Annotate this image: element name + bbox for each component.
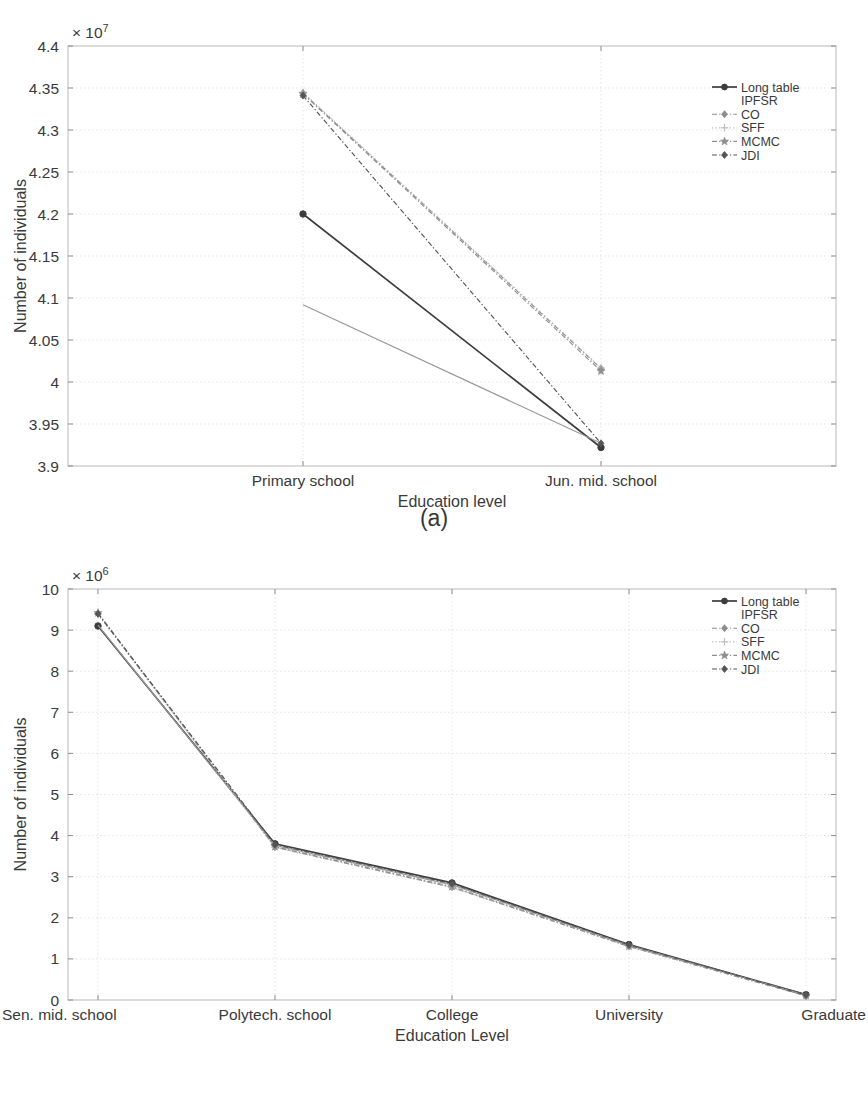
y-tick-label: 4.35 <box>29 80 59 97</box>
legend-label: IPFSR <box>741 608 778 622</box>
series-line-co <box>303 93 601 369</box>
y-tick-label: 5 <box>50 786 59 803</box>
legend-label: IPFSR <box>741 94 778 108</box>
subfigure-a-caption: (a) <box>0 505 868 532</box>
chart-legend: Long tableIPFSRCOSFFMCMCJDI <box>712 595 799 677</box>
x-tick-label: Jun. mid. school <box>545 472 657 489</box>
data-series-group <box>94 609 810 1000</box>
x-tick-label: College <box>426 1006 479 1023</box>
y-tick-label: 4 <box>50 827 59 844</box>
figure-page: 3.93.9544.054.14.154.24.254.34.354.4Prim… <box>0 0 868 1096</box>
legend-label: JDI <box>741 149 760 163</box>
x-tick-label: Sen. mid. school <box>2 1006 117 1023</box>
data-point-marker-circle <box>722 598 728 604</box>
x-tick-label: Polytech. school <box>219 1006 332 1023</box>
series-line-jdi <box>303 96 601 444</box>
chart-legend: Long tableIPFSRCOSFFMCMCJDI <box>712 81 799 163</box>
y-tick-label: 8 <box>50 663 59 680</box>
x-tick-label: Primary school <box>252 472 355 489</box>
y-axis-title: Number of individuals <box>12 718 29 872</box>
data-point-marker-plus <box>721 124 728 131</box>
data-point-marker-circle <box>300 211 306 217</box>
plot-b: 012345678910Sen. mid. schoolPolytech. sc… <box>0 548 868 1096</box>
data-point-marker-diamond <box>722 111 728 118</box>
legend-label: Long table <box>741 81 799 95</box>
y-tick-label: 4 <box>50 374 59 391</box>
y-tick-label: 4.05 <box>29 332 59 349</box>
y-tick-label: 1 <box>50 950 59 967</box>
y-tick-label: 2 <box>50 909 59 926</box>
y-tick-label: 4.4 <box>37 38 59 55</box>
y-tick-label: 4.15 <box>29 248 59 265</box>
subfigure-b: 012345678910Sen. mid. schoolPolytech. sc… <box>0 548 868 1096</box>
x-tick-label: Graduate <box>801 1006 866 1023</box>
y-tick-label: 3.95 <box>29 416 59 433</box>
y-axis-exponent-label: × 106 <box>72 565 109 584</box>
series-line-long-table <box>303 214 601 448</box>
y-tick-label: 6 <box>50 745 59 762</box>
y-tick-label: 4.2 <box>37 206 59 223</box>
y-tick-label: 3 <box>50 868 59 885</box>
y-tick-label: 4.25 <box>29 164 59 181</box>
data-point-marker-diamond <box>722 152 728 159</box>
plot-a: 3.93.9544.054.14.154.24.254.34.354.4Prim… <box>0 0 868 548</box>
subfigure-a: 3.93.9544.054.14.154.24.254.34.354.4Prim… <box>0 0 868 548</box>
data-point-marker-diamond <box>722 666 728 673</box>
y-tick-label: 7 <box>50 704 59 721</box>
data-point-marker-star <box>720 651 728 659</box>
y-axis-exponent-label: × 107 <box>72 22 109 41</box>
x-tick-label: University <box>595 1006 663 1023</box>
y-gridlines <box>68 46 836 466</box>
legend-label: MCMC <box>741 135 780 149</box>
legend-label: SFF <box>741 635 765 649</box>
y-tick-label: 3.9 <box>37 458 59 475</box>
legend-label: CO <box>741 108 760 122</box>
y-tick-label: 9 <box>50 622 59 639</box>
series-line-ipfsr <box>303 305 601 444</box>
data-point-marker-circle <box>722 84 728 90</box>
legend-label: Long table <box>741 595 799 609</box>
legend-label: MCMC <box>741 649 780 663</box>
y-tick-label: 4.1 <box>37 290 59 307</box>
series-line-mcmc <box>303 94 601 371</box>
legend-label: SFF <box>741 121 765 135</box>
data-point-marker-star <box>720 137 728 145</box>
data-series-group <box>299 89 605 451</box>
data-point-marker-diamond <box>722 625 728 632</box>
x-axis-title: Education Level <box>395 1027 509 1044</box>
series-line-sff <box>303 92 601 368</box>
y-tick-label: 4.3 <box>37 122 59 139</box>
legend-label: CO <box>741 622 760 636</box>
legend-label: JDI <box>741 663 760 677</box>
y-axis-title: Number of individuals <box>12 179 29 333</box>
data-point-marker-plus <box>721 638 728 645</box>
y-tick-label: 10 <box>42 581 60 598</box>
